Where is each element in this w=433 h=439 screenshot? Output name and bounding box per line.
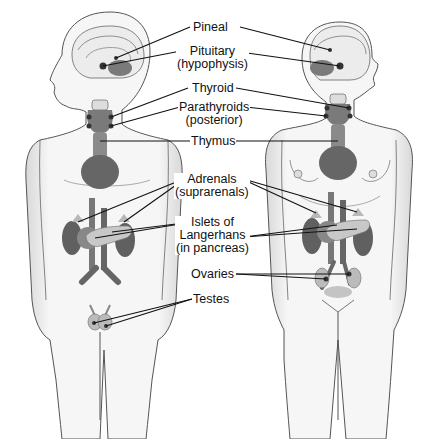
label-ovaries: Ovaries — [190, 268, 235, 281]
female-heart — [319, 146, 357, 180]
label-islets: Islets of Langerhans (in pancreas) — [175, 216, 250, 255]
label-islets-line3: (in pancreas) — [176, 242, 249, 255]
male-heart — [81, 155, 119, 189]
label-testes: Testes — [192, 293, 230, 306]
label-thyroid: Thyroid — [191, 82, 235, 95]
label-pituitary-line2: (hypophysis) — [177, 58, 248, 71]
label-testes-text: Testes — [193, 292, 229, 306]
label-pituitary: Pituitary (hypophysis) — [176, 45, 249, 71]
label-ovaries-text: Ovaries — [191, 267, 234, 281]
male-brain — [72, 26, 144, 78]
label-pineal: Pineal — [192, 21, 229, 34]
male-figure — [26, 12, 182, 439]
endocrine-diagram: Pineal Pituitary (hypophysis) Thyroid Pa… — [0, 0, 433, 439]
label-parathyroids-line2: (posterior) — [179, 114, 249, 127]
label-adrenals: Adrenals (suprarenals) — [174, 173, 250, 199]
male-thyroid — [87, 110, 113, 132]
label-parathyroids: Parathyroids (posterior) — [178, 101, 250, 127]
label-pineal-text: Pineal — [193, 20, 228, 34]
label-adrenals-line2: (suprarenals) — [175, 186, 249, 199]
label-thymus: Thymus — [190, 135, 236, 148]
label-thyroid-text: Thyroid — [192, 81, 234, 95]
label-thymus-text: Thymus — [191, 134, 235, 148]
